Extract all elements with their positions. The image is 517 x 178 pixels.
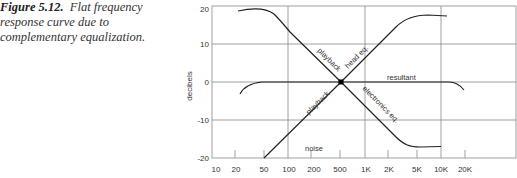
x-tick-5k: 5K <box>412 165 422 174</box>
y-tick-0: 0 <box>205 78 210 87</box>
label-playback-lower: playback <box>304 89 331 116</box>
frequency-response-chart: 20 10 0 -10 -20 decibels 10 20 50 100 20… <box>0 0 517 178</box>
y-tick-minus-20: -20 <box>197 154 209 163</box>
x-tick-10: 10 <box>212 165 221 174</box>
x-tick-labels: 10 20 50 100 200 500 1K 2K 5K 10K 20K <box>212 165 473 174</box>
playback-falling-curve <box>238 9 341 82</box>
label-resultant: resultant <box>387 73 417 82</box>
x-tick-2k: 2K <box>384 165 394 174</box>
y-tick-labels: 20 10 0 -10 -20 <box>197 5 209 163</box>
label-electronics-eq: electronics eq. <box>361 84 402 125</box>
y-tick-20: 20 <box>200 5 209 14</box>
label-playback-upper: playback <box>316 46 343 73</box>
x-tick-50: 50 <box>260 165 269 174</box>
y-axis-label: decibels <box>185 71 194 100</box>
curves <box>238 9 464 158</box>
x-tick-500: 500 <box>333 165 347 174</box>
curve-labels: playback head eq. resultant playback ele… <box>304 43 417 153</box>
x-tick-20k: 20K <box>458 165 473 174</box>
label-noise: noise <box>305 144 323 153</box>
x-tick-200: 200 <box>307 165 321 174</box>
x-tick-100: 100 <box>282 165 296 174</box>
crossover-point <box>339 80 344 85</box>
head-eq-curve <box>341 15 447 82</box>
y-tick-10: 10 <box>200 40 209 49</box>
x-tick-20: 20 <box>232 165 241 174</box>
x-tick-1k: 1K <box>361 165 371 174</box>
x-minor-ticks <box>235 150 465 158</box>
x-tick-10k: 10K <box>434 165 449 174</box>
y-tick-minus-10: -10 <box>197 116 209 125</box>
